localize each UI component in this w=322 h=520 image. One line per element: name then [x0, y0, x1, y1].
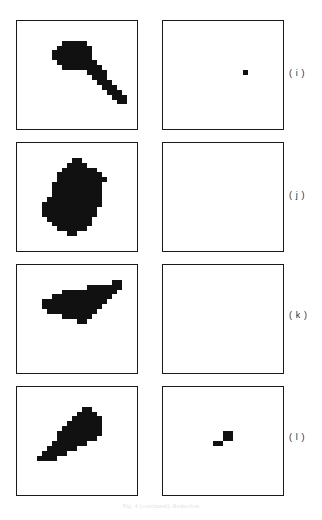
- panel-k-right: [162, 264, 284, 374]
- panel-l-right: [162, 386, 284, 496]
- panel-j-right: [162, 142, 284, 252]
- panel-i-right: [162, 20, 284, 130]
- panel-l-left: [16, 386, 138, 496]
- figure-caption: Fig. 4 (continued). Reduction: [0, 503, 322, 509]
- row-label-i: ( i ): [289, 68, 305, 78]
- panel-j-left: [16, 142, 138, 252]
- panel-i-left: [16, 20, 138, 130]
- row-label-l: ( l ): [289, 432, 305, 442]
- row-label-k: ( k ): [289, 310, 308, 320]
- figure-root: ( i ) ( j ) ( k ) ( l ) Fig. 4 (continue…: [0, 0, 322, 520]
- row-label-j: ( j ): [289, 190, 305, 200]
- panel-k-left: [16, 264, 138, 374]
